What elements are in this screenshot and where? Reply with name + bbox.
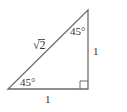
- top-angle-label: 45°: [70, 25, 85, 37]
- hypotenuse-label: √2: [33, 38, 46, 52]
- right-angle-marker: [80, 81, 88, 89]
- bottom-left-angle-label: 45°: [20, 76, 35, 88]
- horizontal-leg-label: 1: [45, 93, 51, 105]
- triangle-diagram: √2 45° 45° 1 1: [0, 0, 127, 112]
- vertical-leg-label: 1: [93, 45, 99, 57]
